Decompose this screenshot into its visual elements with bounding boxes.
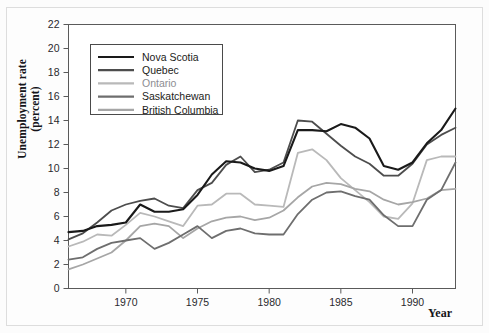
y-tick-label: 10: [48, 162, 60, 174]
y-tick-label: 14: [48, 114, 60, 126]
legend-label: British Columbia: [142, 104, 219, 116]
y-tick-label: 20: [48, 42, 60, 54]
x-tick-label: 1980: [257, 296, 281, 308]
plot-svg: 0246810121416182022 19701975198019851990…: [0, 0, 489, 333]
y-axis-title-line2: (percent): [29, 86, 41, 131]
figure-page: Unemployment rate (percent) Year 0246810…: [0, 0, 489, 333]
line-chart: Unemployment rate (percent) Year 0246810…: [0, 0, 489, 333]
y-axis-ticks: 0246810121416182022: [48, 18, 69, 294]
y-axis-title: Unemployment rate (percent): [16, 34, 42, 184]
x-axis-title: Year: [428, 306, 452, 321]
y-tick-label: 18: [48, 66, 60, 78]
x-tick-label: 1975: [186, 296, 210, 308]
y-tick-label: 12: [48, 138, 60, 150]
x-axis-ticks: 19701975198019851990: [114, 289, 424, 308]
y-axis-title-line1: Unemployment rate: [16, 59, 28, 159]
y-tick-label: 0: [54, 282, 60, 294]
y-tick-label: 16: [48, 90, 60, 102]
x-tick-label: 1970: [114, 296, 138, 308]
legend: Nova ScotiaQuebecOntarioSaskatchewanBrit…: [91, 45, 223, 116]
legend-label: Quebec: [142, 64, 179, 76]
legend-label: Ontario: [142, 77, 177, 89]
y-tick-label: 8: [54, 186, 60, 198]
y-tick-label: 4: [54, 234, 60, 246]
legend-label: Nova Scotia: [142, 51, 199, 63]
x-tick-label: 1990: [401, 296, 425, 308]
y-tick-label: 2: [54, 258, 60, 270]
y-tick-label: 6: [54, 210, 60, 222]
legend-label: Saskatchewan: [142, 90, 210, 102]
x-tick-label: 1985: [329, 296, 353, 308]
y-tick-label: 22: [48, 18, 60, 30]
